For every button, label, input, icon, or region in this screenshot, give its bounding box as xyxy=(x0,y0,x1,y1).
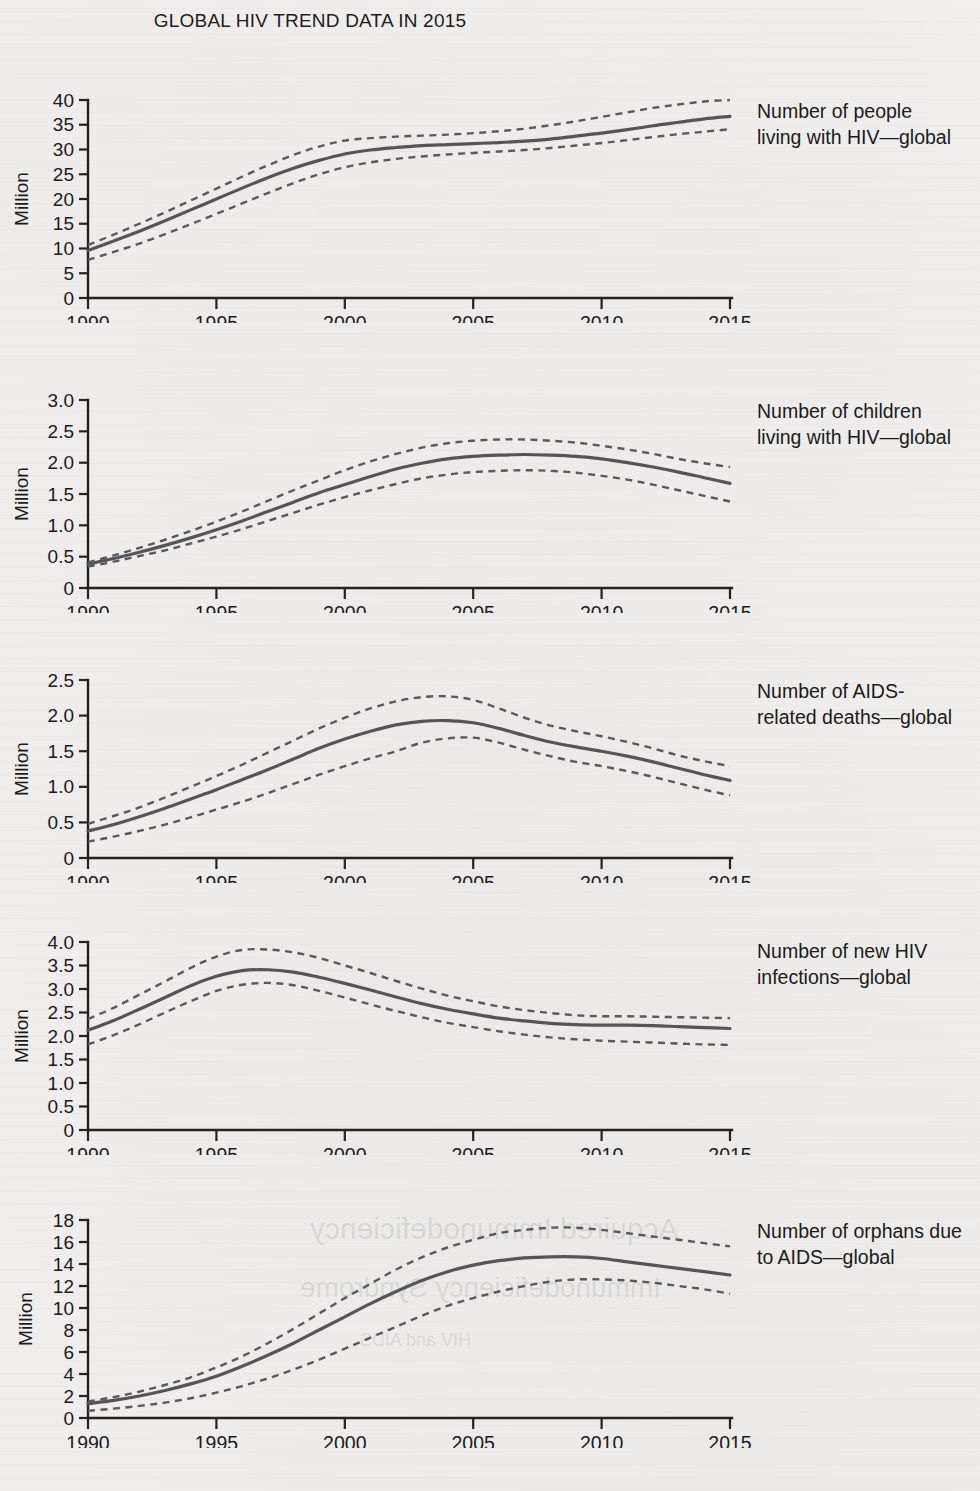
x-tick-label: 2005 xyxy=(452,872,496,883)
series-line-confidence-bound xyxy=(88,129,730,260)
series-line-confidence-bound xyxy=(88,1227,730,1401)
series-line-confidence-bound xyxy=(88,983,730,1045)
chart-svg: 00.51.01.52.02.53.0199019952000200520102… xyxy=(0,388,760,613)
series-line-confidence-bound xyxy=(88,439,730,562)
label-line-1: Number of AIDS- xyxy=(757,678,980,704)
label-line-2: living with HIV—global xyxy=(757,424,980,450)
series-line-confidence-bound xyxy=(88,1279,730,1411)
y-tick-label: 20 xyxy=(53,189,74,210)
series-line-estimate xyxy=(88,1257,730,1404)
y-tick-label: 2.5 xyxy=(48,421,74,442)
series-line-confidence-bound xyxy=(88,470,730,567)
x-tick-label: 1990 xyxy=(66,1432,110,1448)
x-tick-label: 2015 xyxy=(708,872,752,883)
chart-label-new-hiv-infections: Number of new HIV infections—global xyxy=(757,938,980,990)
x-tick-label: 2000 xyxy=(323,1432,367,1448)
x-tick-label: 2000 xyxy=(323,872,367,883)
y-tick-label: 2.0 xyxy=(48,705,74,726)
x-tick-label: 2010 xyxy=(580,602,624,613)
x-tick-label: 2000 xyxy=(323,1144,367,1155)
label-line-1: Number of people xyxy=(757,98,980,124)
y-tick-label: 2.5 xyxy=(48,1002,74,1023)
x-tick-label: 2005 xyxy=(452,1144,496,1155)
y-tick-label: 5 xyxy=(63,263,74,284)
x-tick-label: 1995 xyxy=(195,872,239,883)
y-tick-label: 10 xyxy=(53,1298,74,1319)
y-tick-label: 2.5 xyxy=(48,670,74,691)
x-tick-label: 1990 xyxy=(66,1144,110,1155)
label-line-2: living with HIV—global xyxy=(757,124,980,150)
chart-label-people-living-with-hiv: Number of people living with HIV—global xyxy=(757,98,980,150)
y-tick-label: 2.0 xyxy=(48,452,74,473)
x-tick-label: 1995 xyxy=(195,1432,239,1448)
y-tick-label: 1.0 xyxy=(48,515,74,536)
x-tick-label: 2015 xyxy=(708,312,752,323)
y-tick-label: 1.0 xyxy=(48,1073,74,1094)
y-tick-label: 10 xyxy=(53,238,74,259)
y-tick-label: 2.0 xyxy=(48,1026,74,1047)
y-tick-label: 18 xyxy=(53,1210,74,1231)
y-tick-label: 0 xyxy=(63,578,74,599)
y-tick-label: 40 xyxy=(53,90,74,111)
y-axis-title: Million xyxy=(11,996,33,1076)
y-tick-label: 25 xyxy=(53,164,74,185)
chart-panel-new-hiv-infections: 00.51.01.52.02.53.03.54.0199019952000200… xyxy=(0,930,760,1155)
y-axis-title: Million xyxy=(15,1279,37,1359)
y-axis-title: Million xyxy=(11,159,33,239)
chart-label-aids-related-deaths: Number of AIDS- related deaths—global xyxy=(757,678,980,730)
y-axis-title: Million xyxy=(11,454,33,534)
x-tick-label: 2010 xyxy=(580,1144,624,1155)
x-tick-label: 2005 xyxy=(452,602,496,613)
y-tick-label: 3.0 xyxy=(48,390,74,411)
y-tick-label: 0.5 xyxy=(48,1096,74,1117)
y-tick-label: 0 xyxy=(63,848,74,869)
x-tick-label: 1995 xyxy=(195,1144,239,1155)
y-tick-label: 8 xyxy=(63,1320,74,1341)
y-tick-label: 2 xyxy=(63,1386,74,1407)
y-axis-title: Million xyxy=(11,729,33,809)
y-tick-label: 1.5 xyxy=(48,741,74,762)
page-title: GLOBAL HIV TREND DATA IN 2015 xyxy=(0,10,620,32)
y-tick-label: 0 xyxy=(63,1408,74,1429)
x-tick-label: 2000 xyxy=(323,312,367,323)
x-tick-label: 1990 xyxy=(66,872,110,883)
x-tick-label: 2015 xyxy=(708,1144,752,1155)
x-tick-label: 2015 xyxy=(708,1432,752,1448)
x-tick-label: 1990 xyxy=(66,312,110,323)
y-tick-label: 1.5 xyxy=(48,484,74,505)
x-tick-label: 1995 xyxy=(195,312,239,323)
chart-svg: 00.51.01.52.02.5199019952000200520102015 xyxy=(0,668,760,883)
label-line-1: Number of children xyxy=(757,398,980,424)
chart-panel-aids-related-deaths: 00.51.01.52.02.5199019952000200520102015… xyxy=(0,668,760,883)
series-line-confidence-bound xyxy=(88,100,730,245)
chart-panel-children-living-with-hiv: 00.51.01.52.02.53.0199019952000200520102… xyxy=(0,388,760,613)
chart-label-orphans-due-to-aids: Number of orphans due to AIDS—global xyxy=(757,1218,980,1270)
y-tick-label: 15 xyxy=(53,213,74,234)
x-tick-label: 2010 xyxy=(580,312,624,323)
y-tick-label: 3.5 xyxy=(48,955,74,976)
x-tick-label: 2010 xyxy=(580,872,624,883)
x-tick-label: 2015 xyxy=(708,602,752,613)
y-tick-label: 0 xyxy=(63,288,74,309)
y-tick-label: 1.0 xyxy=(48,776,74,797)
chart-svg: 00.51.01.52.02.53.03.54.0199019952000200… xyxy=(0,930,760,1155)
x-tick-label: 2010 xyxy=(580,1432,624,1448)
chart-label-children-living-with-hiv: Number of children living with HIV—globa… xyxy=(757,398,980,450)
chart-svg: 024681012141618199019952000200520102015 xyxy=(0,1208,760,1448)
series-line-confidence-bound xyxy=(88,696,730,824)
x-tick-label: 2005 xyxy=(452,312,496,323)
label-line-1: Number of orphans due xyxy=(757,1218,980,1244)
y-tick-label: 0.5 xyxy=(48,812,74,833)
y-tick-label: 0.5 xyxy=(48,546,74,567)
y-tick-label: 35 xyxy=(53,114,74,135)
y-tick-label: 1.5 xyxy=(48,1049,74,1070)
x-tick-label: 1990 xyxy=(66,602,110,613)
label-line-2: to AIDS—global xyxy=(757,1244,980,1270)
y-tick-label: 4 xyxy=(63,1364,74,1385)
label-line-2: infections—global xyxy=(757,964,980,990)
chart-panel-people-living-with-hiv: 0510152025303540199019952000200520102015… xyxy=(0,88,760,323)
y-tick-label: 16 xyxy=(53,1232,74,1253)
chart-svg: 0510152025303540199019952000200520102015 xyxy=(0,88,760,323)
series-line-estimate xyxy=(88,720,730,830)
label-line-2: related deaths—global xyxy=(757,704,980,730)
